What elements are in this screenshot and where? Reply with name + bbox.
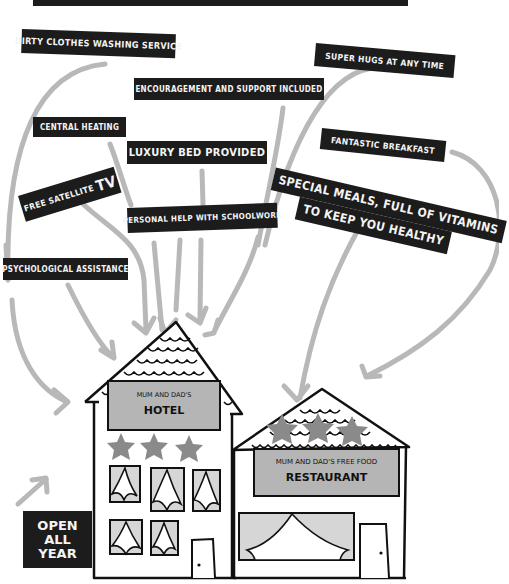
hotel-sign-line1: MUM AND DAD'S (108, 391, 220, 399)
hotel-sign-line2: HOTEL (108, 404, 220, 417)
restaurant-sign-line1: MUM AND DAD'S FREE FOOD (254, 458, 399, 466)
arrow-dirty-clothes (8, 64, 105, 280)
arrow-luxury-bed (202, 171, 203, 205)
arrow-special-meals (300, 230, 358, 398)
arrow-help-2 (176, 240, 180, 310)
label-central-heating: Central heating (33, 117, 126, 137)
arrow-help-4 (215, 237, 258, 330)
hotel-stars (107, 433, 203, 462)
label-luxury-bed: Luxury bed provided (127, 141, 267, 164)
arrow-help-3 (200, 240, 201, 320)
arrow-psych-2 (68, 285, 113, 357)
open-line2: ALL (23, 533, 92, 547)
label-encouragement: Encouragement and support included (134, 78, 324, 100)
hotel-sign-text: MUM AND DAD'S HOTEL (108, 391, 220, 417)
label-personal-help: Personal help with schoolwork (127, 203, 278, 233)
open-line1: OPEN (23, 519, 92, 533)
restaurant-sign-text: MUM AND DAD'S FREE FOOD RESTAURANT (254, 458, 399, 484)
arrow-psych-1 (12, 300, 67, 402)
restaurant-sign-line2: RESTAURANT (254, 471, 399, 484)
open-line3: YEAR (23, 547, 92, 561)
open-all-year-badge: OPEN ALL YEAR (23, 511, 92, 568)
arrow-open-all-year (18, 479, 46, 504)
label-tv-text: TV (94, 172, 119, 195)
label-psychological: Psychological assistance (3, 258, 128, 280)
